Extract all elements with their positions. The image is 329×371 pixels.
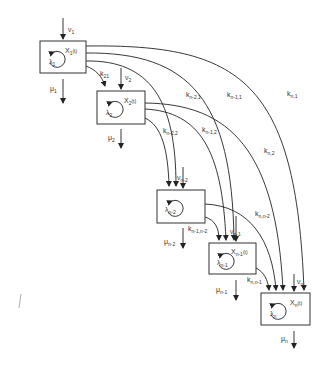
compartment-n-2: λn-2 (157, 190, 205, 223)
compartment-n-1: Xn-1(t) λn-1 (209, 243, 256, 274)
output-label-n-1: μn-1 (216, 286, 227, 295)
compartment-2: X2(t) λ2 (97, 91, 145, 124)
input-label-2: ν2 (125, 74, 132, 83)
rate-label-kn-2: kn,2 (264, 147, 275, 156)
compartment-diagram: X1(t) λ1 ν1 μ1 X2(t) λ2 ν2 μ2 λn-2 νn-2 … (0, 0, 329, 371)
rate-label-kn-n-2: kn,n-2 (255, 210, 270, 219)
stray-mark (19, 294, 21, 308)
rate-label-kn-1-2: kn-1,2 (202, 126, 217, 135)
input-label-n: νn (297, 278, 304, 287)
rate-label-kn-2-1: kn-2,1 (186, 91, 201, 100)
input-label-n-1: νn-1 (230, 228, 241, 237)
compartment-1: X1(t) λ1 (40, 41, 86, 73)
compartment-n: Xn(t) λn (261, 293, 310, 325)
output-label-1: μ1 (50, 85, 57, 94)
rate-label-kn-1-1: kn-1,1 (227, 91, 242, 100)
rate-label-kn-n-1: kn,n-1 (247, 276, 262, 285)
external-inputs (63, 18, 294, 291)
output-label-n: μn (281, 335, 288, 344)
arrow-kn-1 (86, 46, 304, 290)
input-label-1: ν1 (68, 26, 75, 35)
output-label-n-2: μn-2 (164, 238, 175, 247)
input-label-n-2: νn-2 (177, 174, 188, 183)
output-label-2: μ2 (108, 134, 115, 143)
transfer-curves (86, 46, 304, 290)
rate-label-kn-1: kn,1 (287, 90, 298, 99)
rate-label-kn-1-n-2: kn-1,n-2 (188, 225, 208, 234)
